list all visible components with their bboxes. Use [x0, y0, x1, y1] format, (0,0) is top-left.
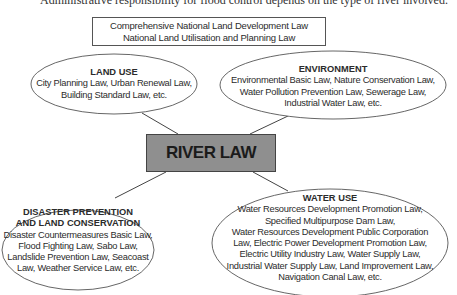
water-use-line: Law, Electric Power Development Promotio… [215, 238, 445, 249]
node-water-use: WATER USE Water Resources Development Pr… [215, 193, 445, 283]
node-environment: ENVIRONMENT Environmental Basic Law, Nat… [222, 64, 444, 109]
disaster-title-1: DISASTER PREVENTION [2, 207, 154, 218]
node-land-use: LAND USE City Planning Law, Urban Renewa… [36, 67, 192, 101]
water-use-line: Electric Utility Industry Law, Water Sup… [215, 249, 445, 260]
river-law-box: RIVER LAW [146, 134, 276, 172]
connector-environment [250, 116, 288, 134]
disaster-line: Disaster Countermeasures Basic Law, [2, 230, 154, 241]
node-disaster-prevention: DISASTER PREVENTION AND LAND CONSERVATIO… [2, 207, 154, 275]
land-use-line: Building Standard Law, etc. [36, 90, 192, 101]
land-use-title: LAND USE [36, 67, 192, 78]
water-use-line: Industrial Water Supply Law, Land Improv… [215, 261, 445, 272]
river-law-label: RIVER LAW [166, 143, 256, 163]
land-use-line: City Planning Law, Urban Renewal Law, [36, 78, 192, 89]
water-use-line: Water Resources Development Promotion La… [215, 204, 445, 215]
environment-line: Industrial Water Law, etc. [222, 98, 444, 109]
disaster-line: Landslide Prevention Law, Seacoast [2, 252, 154, 263]
water-use-title: WATER USE [215, 193, 445, 204]
water-use-line: Specified Multipurpose Dam Law, [215, 216, 445, 227]
environment-title: ENVIRONMENT [222, 64, 444, 75]
disaster-line: Law, Weather Service Law, etc. [2, 263, 154, 274]
water-use-line: Navigation Canal Law, etc. [215, 272, 445, 283]
connector-disaster [115, 172, 166, 198]
environment-line: Water Pollution Prevention Law, Sewerage… [222, 87, 444, 98]
connector-land-use [142, 113, 178, 134]
connector-water-use [253, 172, 288, 191]
disaster-line: Flood Fighting Law, Sabo Law, [2, 241, 154, 252]
environment-line: Environmental Basic Law, Nature Conserva… [222, 75, 444, 86]
disaster-title-2: AND LAND CONSERVATION [2, 218, 154, 229]
water-use-line: Water Resources Development Public Corpo… [215, 227, 445, 238]
